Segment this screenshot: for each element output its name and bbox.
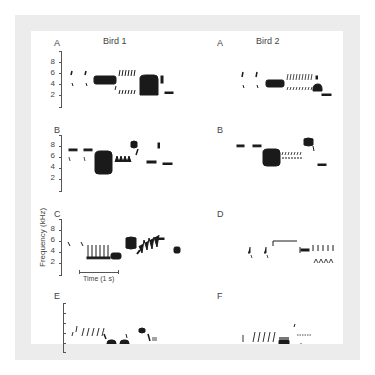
spectrograms [31, 31, 343, 344]
axis-tick [63, 352, 66, 353]
panel-label-f-bird2: F [217, 291, 223, 301]
axis-tick [59, 241, 62, 242]
tick-label-6: 6 [45, 151, 55, 160]
tick-label-6: 6 [45, 235, 55, 244]
tick-label-8: 8 [45, 224, 55, 233]
axis-tick [59, 146, 62, 147]
axis-tick [59, 230, 62, 231]
axis-tick [59, 252, 62, 253]
y-axis-e [63, 303, 64, 353]
axis-tick [59, 135, 62, 136]
spectrogram-a-bird1 [71, 70, 173, 95]
spectrogram-d-bird2 [248, 241, 333, 263]
axis-tick [59, 263, 62, 264]
axis-tick [59, 168, 62, 169]
axis-tick [59, 219, 62, 220]
panel-label-b-bird2: B [217, 125, 223, 135]
spectrogram-b-bird2 [237, 138, 326, 166]
axis-tick [63, 323, 66, 324]
panel-label-c-bird1: C [54, 209, 61, 219]
spectrogram-c-bird1 [68, 235, 180, 259]
spectrogram-f-bird2 [243, 324, 321, 344]
axis-tick [63, 313, 66, 314]
panel-label-e-bird1: E [54, 291, 60, 301]
axis-tick [59, 275, 62, 276]
axis-tick [59, 179, 62, 180]
tick-label-2: 2 [45, 257, 55, 266]
spectrogram-b-bird1 [69, 141, 172, 174]
tick-label-2: 2 [45, 173, 55, 182]
time-scale-bar [79, 272, 119, 273]
time-scale-label: Time (1 s) [83, 275, 114, 282]
axis-tick [63, 333, 66, 334]
panel-label-b-bird1: B [54, 125, 60, 135]
tick-label-4: 4 [45, 246, 55, 255]
axis-tick [59, 191, 62, 192]
spectrogram-e-bird1 [72, 326, 157, 344]
figure-panel: Bird 1 Bird 2 A A 8 6 4 2 [31, 31, 343, 344]
y-axis-b [61, 135, 62, 192]
tick-label-8: 8 [45, 140, 55, 149]
axis-tick [59, 157, 62, 158]
axis-tick [63, 343, 66, 344]
tick-label-4: 4 [45, 162, 55, 171]
spectrogram-a-bird2 [242, 72, 331, 96]
axis-tick [63, 303, 66, 304]
panel-label-d-bird2: D [217, 209, 224, 219]
y-axis-c [61, 219, 62, 276]
